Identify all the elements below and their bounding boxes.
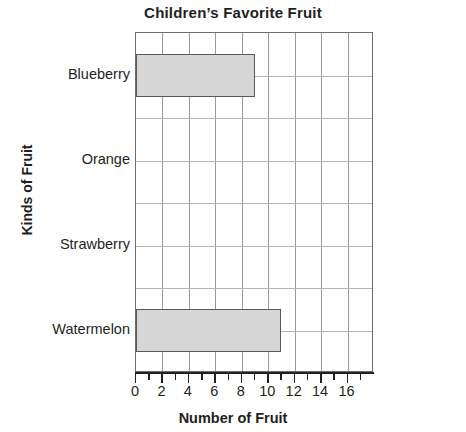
x-tick-minor bbox=[228, 374, 229, 380]
y-category-label: Strawberry bbox=[0, 237, 130, 252]
gridline-horizontal bbox=[136, 288, 372, 289]
gridline-vertical bbox=[295, 33, 296, 371]
x-tick-minor bbox=[280, 374, 281, 380]
x-tick-major bbox=[241, 374, 242, 383]
x-tick-major bbox=[214, 374, 215, 383]
x-tick-minor bbox=[307, 374, 308, 380]
y-axis-category-labels: BlueberryOrangeStrawberryWatermelon bbox=[0, 32, 130, 372]
x-tick-major bbox=[294, 374, 295, 383]
x-tick-minor bbox=[201, 374, 202, 380]
x-tick-label: 16 bbox=[327, 384, 367, 399]
bar-blueberry bbox=[136, 54, 255, 97]
y-category-label: Watermelon bbox=[0, 322, 130, 337]
bar-chart: Children’s Favorite Fruit Kinds of Fruit… bbox=[0, 0, 466, 432]
x-tick-major bbox=[347, 374, 348, 383]
gridline-horizontal bbox=[136, 246, 372, 247]
x-tick-major bbox=[135, 374, 136, 383]
x-tick-minor bbox=[360, 374, 361, 380]
x-tick-major bbox=[267, 374, 268, 383]
x-tick-minor bbox=[333, 374, 334, 380]
x-tick-major bbox=[161, 374, 162, 383]
x-tick-major bbox=[320, 374, 321, 383]
x-tick-minor bbox=[175, 374, 176, 380]
x-axis-title: Number of Fruit bbox=[0, 410, 466, 426]
gridline-vertical bbox=[321, 33, 322, 371]
x-tick-major bbox=[188, 374, 189, 383]
chart-title: Children’s Favorite Fruit bbox=[0, 4, 466, 21]
gridline-vertical bbox=[348, 33, 349, 371]
y-category-label: Orange bbox=[0, 152, 130, 167]
gridline-horizontal bbox=[136, 118, 372, 119]
gridline-horizontal bbox=[136, 161, 372, 162]
bar-watermelon bbox=[136, 309, 281, 352]
y-category-label: Blueberry bbox=[0, 67, 130, 82]
x-tick-minor bbox=[148, 374, 149, 380]
x-tick-minor bbox=[254, 374, 255, 380]
gridline-horizontal bbox=[136, 203, 372, 204]
plot-area bbox=[135, 32, 373, 372]
